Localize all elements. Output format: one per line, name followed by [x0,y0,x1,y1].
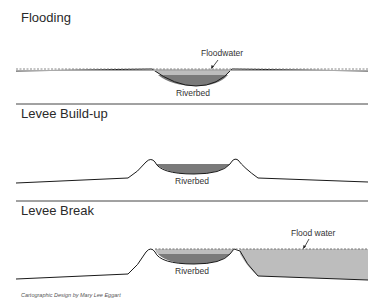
flooding-cross-section [16,60,368,86]
credit-text: Cartographic Design by Mary Lee Eggart [21,292,121,298]
riverbed-label: Riverbed [175,176,209,186]
panel-title-flooding: Flooding [21,10,71,25]
riverbed-label: Riverbed [176,88,210,98]
riverbed-fill [156,164,230,174]
floodwater-label: Floodwater [201,48,243,58]
flood-water-label: Flood water [291,228,335,238]
panel-title-levee-break: Levee Break [21,203,94,218]
panel-title-levee-buildup: Levee Build-up [21,106,108,121]
riverbed-label: Riverbed [175,266,209,276]
levee-diagram [0,0,379,308]
floodwater-fill [240,249,368,280]
riverbed-fill [158,254,230,264]
